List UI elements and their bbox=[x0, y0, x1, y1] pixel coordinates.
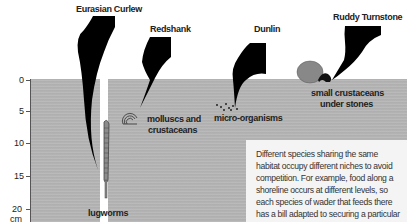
tick-label: 10 bbox=[0, 138, 24, 148]
dunlin-label: Dunlin bbox=[254, 24, 280, 34]
tick-10 bbox=[26, 143, 31, 144]
tick-5 bbox=[26, 111, 31, 112]
curlew-label: Eurasian Curlew bbox=[76, 4, 142, 14]
molluscs-label-1: molluscs and bbox=[147, 114, 201, 124]
micro-label: micro-organisms bbox=[214, 113, 283, 123]
shell-icon bbox=[122, 113, 137, 124]
micro-organism-dots bbox=[216, 103, 238, 111]
crustaceans-label-1: small crustaceans bbox=[311, 88, 384, 98]
redshank-bill-icon bbox=[140, 37, 171, 108]
dunlin-bill-icon bbox=[233, 43, 266, 108]
tick-label: 0 bbox=[0, 75, 24, 85]
tick-label: 5 bbox=[0, 106, 24, 116]
curlew-bill-icon bbox=[78, 16, 115, 170]
tick-0 bbox=[26, 80, 31, 81]
tick-label: 20 cm bbox=[0, 204, 22, 222]
turnstone-bill-icon bbox=[332, 26, 381, 80]
tick-label: 15 bbox=[0, 171, 24, 181]
lugworms-label: lugworms bbox=[88, 208, 128, 218]
explanation-note: Different species sharing the same habit… bbox=[246, 140, 407, 222]
molluscs-label-2: crustaceans bbox=[148, 125, 197, 135]
crustaceans-label-2: under stones bbox=[320, 99, 373, 109]
turnstone-label: Ruddy Turnstone bbox=[333, 12, 402, 22]
depth-axis bbox=[30, 79, 31, 222]
lugworm-icon bbox=[104, 120, 109, 198]
tick-15 bbox=[26, 176, 31, 177]
redshank-label: Redshank bbox=[150, 24, 191, 34]
tick-20 bbox=[26, 209, 31, 210]
